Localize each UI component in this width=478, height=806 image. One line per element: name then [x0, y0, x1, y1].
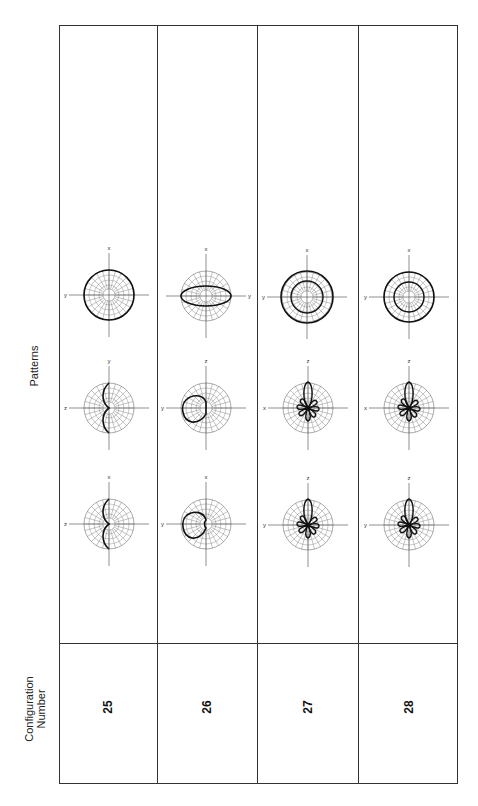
svg-text:y: y: [64, 292, 67, 298]
polar-pattern-28-3: z y: [364, 475, 449, 567]
svg-text:y: y: [161, 521, 164, 527]
polar-patterns: x y y z x z x y z y x y x y: [0, 0, 478, 806]
svg-text:x: x: [108, 245, 111, 251]
svg-text:y: y: [364, 294, 367, 300]
svg-text:x: x: [364, 405, 367, 411]
polar-pattern-25-3: x z: [64, 474, 149, 566]
svg-text:y: y: [262, 294, 265, 300]
polar-pattern-25-2: y z: [64, 358, 149, 450]
polar-pattern-27-3: z y: [263, 475, 348, 567]
svg-text:x: x: [263, 405, 266, 411]
svg-text:z: z: [64, 521, 67, 527]
svg-text:x: x: [306, 247, 309, 253]
svg-text:z: z: [205, 358, 208, 364]
svg-text:y: y: [364, 522, 367, 528]
svg-text:x: x: [408, 247, 411, 253]
polar-pattern-26-1: x y: [166, 246, 251, 338]
svg-text:z: z: [64, 405, 67, 411]
polar-pattern-28-2: z x: [364, 358, 449, 450]
polar-pattern-27-1: x y: [262, 247, 347, 339]
polar-pattern-26-3: x y: [161, 474, 246, 566]
svg-text:z: z: [307, 475, 310, 481]
svg-text:y: y: [161, 405, 164, 411]
svg-text:y: y: [248, 293, 251, 299]
svg-text:x: x: [205, 246, 208, 252]
svg-text:y: y: [263, 522, 266, 528]
polar-pattern-28-1: x y: [364, 247, 449, 339]
polar-pattern-25-1: x y: [64, 245, 149, 337]
svg-text:y: y: [108, 358, 111, 364]
svg-text:z: z: [408, 475, 411, 481]
svg-text:z: z: [307, 358, 310, 364]
svg-text:x: x: [108, 474, 111, 480]
svg-text:x: x: [205, 474, 208, 480]
polar-pattern-26-2: z y: [161, 358, 246, 450]
polar-pattern-27-2: z x: [263, 358, 348, 450]
svg-text:z: z: [408, 358, 411, 364]
